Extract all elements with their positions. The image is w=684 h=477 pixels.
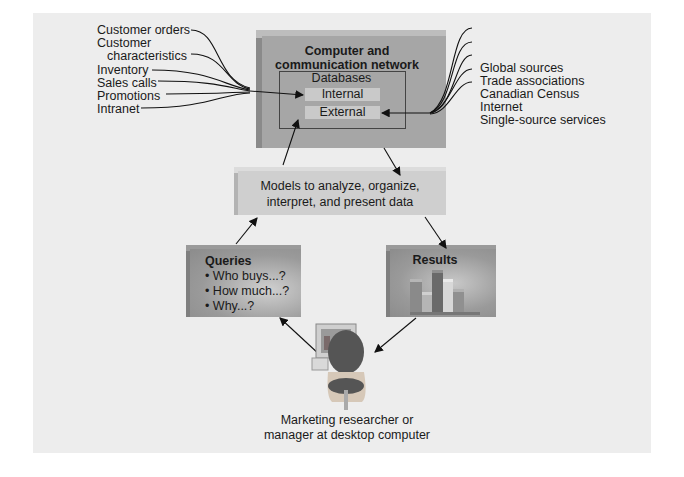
- person-at-computer-icon: [308, 322, 380, 412]
- user-caption: Marketing researcher or manager at deskt…: [242, 413, 452, 443]
- source-intranet: Intranet: [97, 103, 139, 116]
- caption-line2: manager at desktop computer: [242, 428, 452, 443]
- source-characteristics: characteristics: [107, 50, 187, 63]
- source-single-source: Single-source services: [480, 114, 606, 127]
- caption-line1: Marketing researcher or: [242, 413, 452, 428]
